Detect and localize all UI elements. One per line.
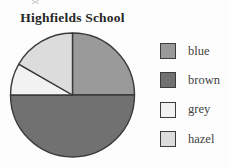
legend-item-brown: brown (160, 72, 220, 88)
cropped-glyph-artifact (31, 0, 41, 5)
legend-label-blue: blue (188, 45, 210, 58)
legend-swatch-grey (160, 102, 176, 118)
pie-slice-brown (11, 95, 135, 157)
legend-swatch-blue (160, 43, 176, 59)
figure: Highfields School bluebrowngreyhazel (0, 0, 229, 167)
legend-item-hazel: hazel (160, 131, 220, 147)
legend-item-grey: grey (160, 102, 220, 118)
legend-swatch-brown (160, 72, 176, 88)
legend-swatch-hazel (160, 131, 176, 147)
legend-label-grey: grey (188, 103, 210, 116)
legend: bluebrowngreyhazel (160, 43, 220, 147)
pie-slice-blue (73, 33, 135, 95)
legend-label-brown: brown (188, 74, 220, 87)
pie-chart (8, 30, 138, 160)
legend-item-blue: blue (160, 43, 220, 59)
chart-title: Highfields School (0, 11, 145, 25)
legend-label-hazel: hazel (188, 133, 214, 146)
